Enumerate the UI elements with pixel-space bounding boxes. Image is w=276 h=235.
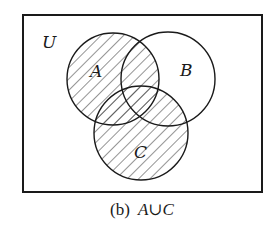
set-a-label: A (88, 61, 102, 81)
figure-caption: (b)A∪C (0, 199, 276, 220)
caption-expression: A∪C (138, 200, 174, 219)
caption-tag: (b) (110, 200, 130, 219)
set-b-label: B (179, 60, 193, 80)
set-c-label: C (134, 142, 147, 162)
universe-label: U (42, 32, 57, 52)
venn-diagram-figure: U A B C (b)A∪C (0, 0, 276, 235)
